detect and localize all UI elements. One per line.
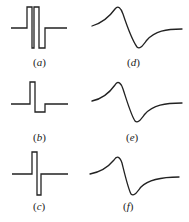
response-curve-e <box>92 82 182 121</box>
panel-label-c: (c) <box>33 200 46 213</box>
panel-label-b: (b) <box>33 131 46 144</box>
figure-canvas: (a) (d) (b) (e) (c) (f) <box>0 0 189 222</box>
response-curve-d <box>92 7 182 48</box>
panel-d: (d) <box>92 7 182 69</box>
pulse-waveform-a <box>11 7 67 48</box>
response-curve-f <box>90 157 179 195</box>
pulse-waveform-c <box>12 152 68 195</box>
panel-b: (b) <box>11 82 68 144</box>
panel-label-e: (e) <box>126 131 139 144</box>
panel-label-a: (a) <box>33 56 46 69</box>
panel-e: (e) <box>92 82 182 144</box>
panel-a: (a) <box>11 7 67 69</box>
panel-f: (f) <box>90 157 179 213</box>
pulse-waveform-b <box>11 82 68 112</box>
panel-label-f: (f) <box>123 200 134 213</box>
panel-c: (c) <box>12 152 68 213</box>
panel-label-d: (d) <box>127 56 140 69</box>
